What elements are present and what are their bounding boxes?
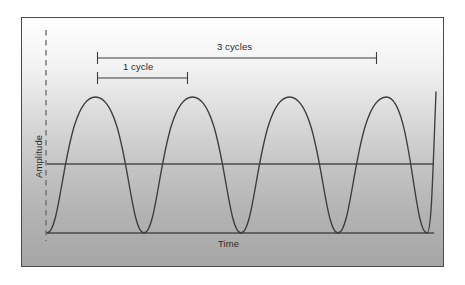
one-cycle-label: 1 cycle [123, 61, 153, 72]
time-axis-label: Time [218, 238, 239, 249]
figure-root: Amplitude Time 3 cycles 1 cycle [0, 0, 465, 285]
plot-panel-frame [22, 18, 444, 267]
three-cycles-label: 3 cycles [217, 41, 252, 52]
amplitude-axis-label: Amplitude [33, 135, 44, 178]
